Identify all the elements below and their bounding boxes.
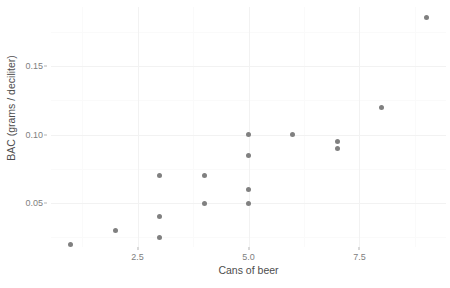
data-point — [68, 242, 73, 247]
x-axis-ticks: 2.55.07.5 — [51, 247, 446, 265]
y-axis-ticks: 0.050.100.15 — [0, 7, 47, 247]
x-tick-mark — [137, 247, 138, 250]
gridline-minor-vertical — [82, 7, 83, 247]
y-tick-label: 0.05 — [25, 198, 43, 208]
data-point — [379, 105, 384, 110]
x-tick-mark — [248, 247, 249, 250]
gridline-major-vertical — [138, 7, 139, 247]
data-point — [202, 173, 207, 178]
data-point — [290, 132, 295, 137]
gridline-major-vertical — [359, 7, 360, 247]
y-tick-mark — [44, 134, 47, 135]
data-point — [335, 146, 340, 151]
gridline-minor-vertical — [304, 7, 305, 247]
plot-panel — [51, 7, 446, 247]
data-point — [157, 235, 162, 240]
data-point — [335, 139, 340, 144]
x-tick-label: 2.5 — [131, 252, 144, 262]
y-tick-label: 0.15 — [25, 61, 43, 71]
gridline-major-vertical — [249, 7, 250, 247]
x-axis-title: Cans of beer — [51, 264, 446, 276]
y-tick-mark — [44, 203, 47, 204]
data-point — [202, 201, 207, 206]
data-point — [157, 214, 162, 219]
data-point — [424, 15, 429, 20]
gridline-minor-vertical — [415, 7, 416, 247]
data-point — [113, 228, 118, 233]
y-tick-mark — [44, 65, 47, 66]
data-point — [246, 201, 251, 206]
data-point — [246, 187, 251, 192]
data-point — [157, 173, 162, 178]
data-point — [246, 132, 251, 137]
x-tick-label: 7.5 — [353, 252, 366, 262]
gridline-major-horizontal — [51, 66, 446, 67]
y-tick-label: 0.10 — [25, 130, 43, 140]
scatter-plot: BAC (grams / deciliter) 0.050.100.15 2.5… — [0, 0, 450, 288]
x-tick-mark — [359, 247, 360, 250]
data-point — [246, 153, 251, 158]
gridline-minor-vertical — [193, 7, 194, 247]
x-tick-label: 5.0 — [242, 252, 255, 262]
